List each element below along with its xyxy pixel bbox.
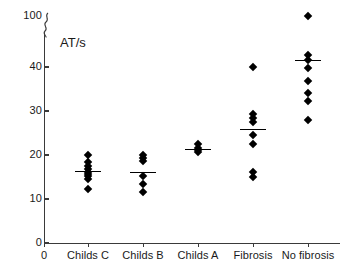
scatter-plot-chart: AT/s 010203040100 0Childs CChilds BChild… [0, 0, 351, 274]
mean-marker [185, 149, 211, 151]
data-point [84, 185, 92, 193]
data-point [249, 173, 257, 181]
data-point [304, 12, 312, 20]
data-point [249, 118, 257, 126]
data-point [304, 77, 312, 85]
data-point [249, 140, 257, 148]
mean-marker [130, 172, 156, 174]
data-point [249, 131, 257, 139]
data-points-layer [0, 0, 351, 274]
data-point [304, 116, 312, 124]
mean-marker [75, 171, 101, 173]
data-point [304, 97, 312, 105]
mean-marker [295, 60, 321, 62]
data-point [139, 188, 147, 196]
mean-marker [240, 129, 266, 131]
data-point [304, 64, 312, 72]
data-point [249, 63, 257, 71]
